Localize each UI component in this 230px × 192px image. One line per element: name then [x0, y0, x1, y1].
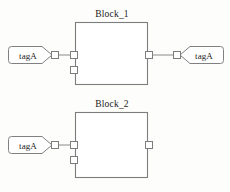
tag-left-top-label: tagA [19, 51, 37, 61]
block-1-input-port-2[interactable] [71, 67, 78, 74]
block-2-label: Block_2 [95, 99, 129, 109]
block-1-body[interactable] [76, 23, 148, 85]
block-1-output-port-1[interactable] [146, 52, 153, 59]
block-1-label: Block_1 [95, 9, 129, 19]
block-2-body[interactable] [76, 113, 148, 178]
tag-right-top-label: tagA [195, 51, 213, 61]
block-2-group[interactable]: Block_2 [71, 99, 153, 178]
tag-right-top-connector[interactable] [174, 52, 181, 59]
tag-left-bottom-group[interactable]: tagA [9, 137, 59, 154]
block-2-input-port-2[interactable] [71, 157, 78, 164]
tag-left-top-group[interactable]: tagA [9, 47, 59, 64]
diagram-canvas: Block_1 Block_2 tagA [0, 0, 230, 192]
block-2-output-port-1[interactable] [146, 142, 153, 149]
tag-left-top-connector[interactable] [52, 52, 59, 59]
block-1-group[interactable]: Block_1 [71, 9, 153, 85]
block-diagram: Block_1 Block_2 tagA [0, 0, 230, 192]
tag-left-bottom-label: tagA [19, 141, 37, 151]
tag-left-bottom-connector[interactable] [52, 142, 59, 149]
block-2-input-port-1[interactable] [71, 142, 78, 149]
tag-right-top-group[interactable]: tagA [174, 47, 224, 64]
block-1-input-port-1[interactable] [71, 52, 78, 59]
